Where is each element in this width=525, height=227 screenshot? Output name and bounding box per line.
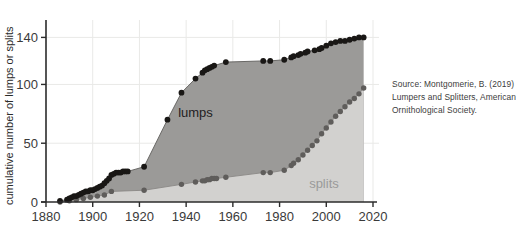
x-tick-label: 2000: [312, 209, 341, 224]
x-tick-label: 1960: [218, 209, 247, 224]
x-tick-label: 1880: [32, 209, 61, 224]
x-tick-label: 1920: [125, 209, 154, 224]
x-tick-label: 1940: [172, 209, 201, 224]
y-tick-label: 100: [16, 77, 38, 92]
series-label-lumps: lumps: [178, 105, 213, 120]
x-tick-label: 2020: [359, 209, 388, 224]
series-label-splits: splits: [309, 176, 339, 191]
source-citation: Source: Montgomerie, B. (2019) Lumpers a…: [392, 78, 524, 117]
y-tick-label: 50: [24, 136, 38, 151]
y-tick-label: 140: [16, 30, 38, 45]
x-tick-label: 1900: [78, 209, 107, 224]
chart-figure: 0501001401880190019201940196019802000202…: [0, 0, 525, 227]
x-tick-label: 1980: [265, 209, 294, 224]
y-tick-label: 0: [31, 195, 38, 210]
y-axis-title: cumulative number of lumps or splits: [3, 26, 15, 205]
